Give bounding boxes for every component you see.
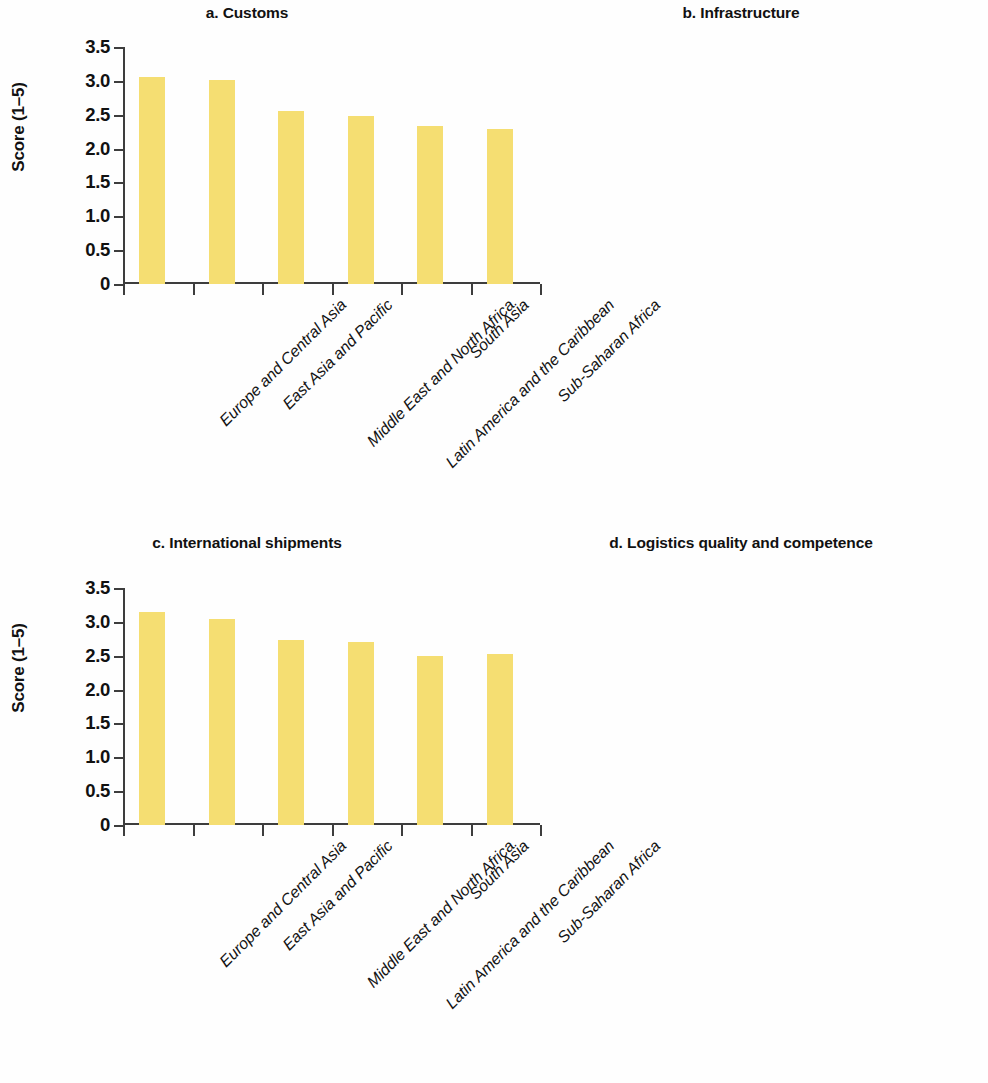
bar [139,77,165,284]
y-axis-tick-label: 2.5 [85,104,110,126]
y-axis-tick-label: 0.5 [85,780,110,802]
bar [417,126,443,284]
y-axis-tick-label: 0.5 [85,239,110,261]
y-axis-tick-mark [114,588,123,590]
bar [278,640,304,825]
y-axis-tick-mark [114,115,123,117]
bar [417,656,443,825]
chart-panel-infrastructure: b. Infrastructure Score (1–5) Europe and… [494,0,988,530]
x-axis-tick-mark [471,825,473,836]
y-axis-tick-mark [114,47,123,49]
y-axis-tick-label: 3.5 [85,36,110,58]
chart-title: d. Logistics quality and competence [494,534,988,552]
plot-area: Europe and Central AsiaEast Asia and Pac… [123,47,540,284]
y-axis-tick-label: 1.5 [85,712,110,734]
y-axis-tick-mark [114,250,123,252]
y-axis-tick-mark [114,81,123,83]
y-axis-tick-mark [114,791,123,793]
y-axis-tick-mark [114,216,123,218]
y-axis-tick-mark [114,284,123,286]
x-axis-tick-mark [262,825,264,836]
y-axis-tick-mark [114,723,123,725]
y-axis-tick-label: 2.0 [85,138,110,160]
x-axis-tick-mark [193,825,195,836]
y-axis-tick-label: 1.0 [85,205,110,227]
y-axis-tick-mark [114,656,123,658]
y-axis-tick-mark [114,622,123,624]
y-axis-tick-mark [114,690,123,692]
y-axis-tick-label: 1.0 [85,746,110,768]
bar [348,116,374,284]
chart-panel-customs: a. Customs Score (1–5) Europe and Centra… [0,0,494,530]
bar [209,619,235,825]
chart-title: c. International shipments [0,534,494,552]
y-axis-label: Score (1–5) [9,623,29,712]
y-axis-tick-label: 2.0 [85,679,110,701]
y-axis-tick-mark [114,149,123,151]
x-axis-tick-mark [262,284,264,295]
x-axis-tick-mark [123,284,125,295]
chart-title: b. Infrastructure [494,4,988,22]
x-axis-tick-mark [123,825,125,836]
chart-title: a. Customs [0,4,494,22]
y-axis-tick-label: 2.5 [85,645,110,667]
y-axis-tick-mark [114,182,123,184]
y-axis-label: Score (1–5) [9,82,29,171]
bar [348,642,374,825]
chart-panel-international-shipments: c. International shipments Score (1–5) E… [0,530,494,1083]
chart-panel-logistics-quality: d. Logistics quality and competence Scor… [494,530,988,1083]
y-axis-line [123,588,125,825]
x-axis-tick-mark [332,825,334,836]
y-axis-tick-label: 3.5 [85,577,110,599]
bar [278,111,304,284]
y-axis-tick-mark [114,757,123,759]
x-axis-tick-mark [332,284,334,295]
bar [209,80,235,284]
plot-area: Europe and Central AsiaEast Asia and Pac… [123,588,540,825]
x-axis-tick-mark [401,284,403,295]
figure-panel-grid: a. Customs Score (1–5) Europe and Centra… [0,0,988,1083]
y-axis-tick-label: 0 [100,814,110,836]
bar [139,612,165,825]
x-axis-tick-mark [401,825,403,836]
y-axis-tick-label: 1.5 [85,171,110,193]
y-axis-tick-mark [114,825,123,827]
y-axis-line [123,47,125,284]
y-axis-tick-label: 0 [100,273,110,295]
y-axis-tick-label: 3.0 [85,611,110,633]
x-axis-tick-mark [193,284,195,295]
y-axis-tick-label: 3.0 [85,70,110,92]
x-axis-tick-mark [471,284,473,295]
